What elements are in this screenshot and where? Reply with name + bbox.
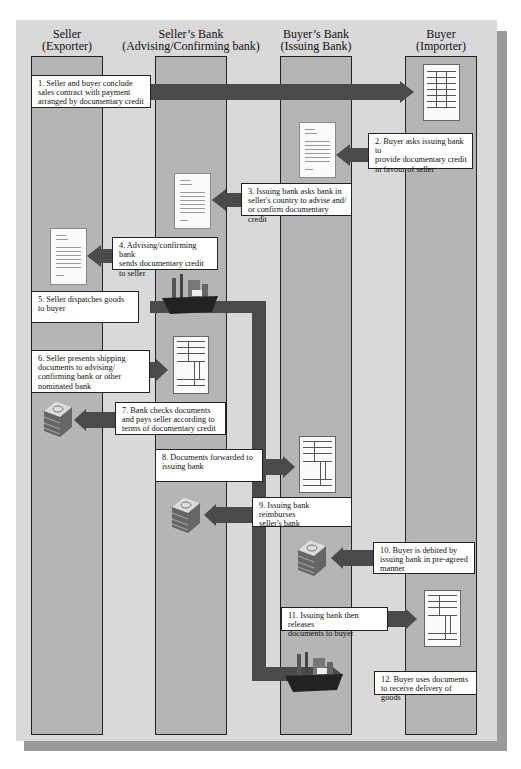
contract-document-icon (423, 64, 460, 121)
cargo-ship-icon (160, 272, 220, 318)
step-9-arrow (215, 507, 255, 523)
letter-document-icon (174, 173, 211, 229)
money-stack-icon (296, 536, 328, 578)
letter-document-icon (299, 122, 336, 178)
step-11-label: 11. Issuing bank then releases documents… (281, 607, 388, 631)
shipping-documents-icon (173, 336, 209, 394)
step-8-label: 8. Documents forwarded to issuing bank (155, 449, 263, 482)
cargo-ship-icon (283, 650, 345, 696)
lane-seller (31, 56, 103, 735)
step-8-arrow (262, 459, 284, 475)
step-1-arrow (150, 84, 402, 100)
step-12-label: 12. Buyer uses documents to receive deli… (374, 671, 477, 695)
step-2-label: 2. Buyer asks issuing bank to provide do… (368, 133, 473, 169)
step-10-arrow-head (331, 547, 343, 569)
step-10-arrow (343, 550, 373, 566)
step-9-arrow-head (204, 504, 216, 526)
step-1-arrow-head (400, 81, 414, 103)
column-header-buyer: Buyer(Importer) (366, 28, 516, 52)
letter-document-icon (50, 228, 87, 285)
shipping-documents-icon (299, 436, 336, 493)
step-11-arrow-head (405, 608, 417, 630)
shipping-documents-icon (424, 590, 461, 647)
step-6-arrow-head (156, 359, 168, 381)
step-4-arrow-head (87, 245, 101, 267)
step-7-arrow-head (74, 409, 86, 431)
step-10-label: 10. Buyer is debited by issuing bank in … (373, 542, 475, 574)
step-11-arrow (386, 611, 406, 627)
lane-sellers-bank (155, 56, 227, 735)
step-4-label: 4. Advising/confirming bank sends docume… (112, 237, 218, 270)
step-3-label: 3. Issuing bank asks bank in seller's co… (241, 183, 352, 216)
step-9-label: 9. Issuing bank reimburses seller's bank (252, 497, 352, 527)
money-stack-icon (42, 397, 74, 439)
step-8-arrow-head (283, 456, 295, 478)
step-1-label: 1. Seller and buyer conclude sales contr… (31, 75, 151, 108)
step-2-arrow-head (336, 144, 350, 166)
goods-path-vertical (252, 301, 266, 679)
panel-shadow-right (497, 31, 507, 750)
step-5-label: 5. Seller dispatches goods to buyer (31, 291, 139, 323)
step-3-arrow-head (212, 189, 226, 211)
step-6-label: 6. Seller presents shipping documents to… (31, 350, 150, 393)
step-7-label: 7. Bank checks documents and pays seller… (115, 402, 226, 435)
money-stack-icon (170, 493, 202, 535)
panel-shadow-bottom (24, 741, 507, 751)
